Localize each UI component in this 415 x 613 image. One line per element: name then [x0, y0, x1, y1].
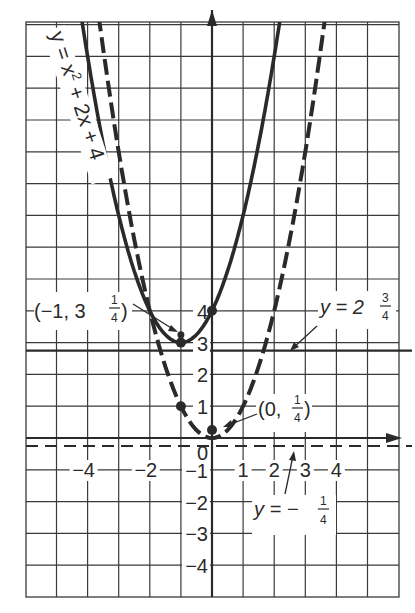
arrow-up-icon: [207, 10, 217, 26]
directrix-lines: [26, 351, 412, 446]
focus1-den: 4: [111, 311, 118, 325]
tick-label: 1: [197, 396, 208, 418]
directrix2-num: 1: [320, 494, 327, 508]
directrix1-num: 3: [382, 291, 389, 305]
arrow-icon: [223, 420, 233, 427]
focus2-den: 4: [294, 411, 301, 425]
focus1-close: ): [121, 300, 128, 322]
focus-label-dashed: (0, 1 4 ): [223, 393, 312, 432]
tick-label: 4: [331, 459, 342, 481]
arrow-icon: [168, 325, 178, 332]
focus1-num: 1: [111, 293, 118, 307]
tick-label: −2: [185, 492, 208, 514]
data-point: [177, 331, 184, 338]
directrix1-text: y = 2: [318, 296, 364, 318]
directrix2-den: 4: [320, 513, 327, 527]
data-point: [176, 401, 186, 411]
directrix1-den: 4: [382, 309, 389, 323]
origin-label: 0: [197, 442, 208, 464]
tick-label: −4: [185, 555, 208, 577]
data-point: [207, 306, 217, 316]
data-point: [176, 338, 186, 348]
tick-label: −3: [185, 523, 208, 545]
tick-label: −4: [72, 459, 95, 481]
focus2-text: (0,: [258, 398, 281, 420]
equation-label: y = x2 + 2x + 4: [42, 24, 117, 185]
directrix2-text: y = −: [252, 498, 298, 520]
parabola-chart: −4−212344321−1−2−3−40 y = x2 + 2x + 4 (−…: [0, 0, 415, 613]
arrow-icon: [289, 451, 296, 461]
tick-label: 3: [197, 333, 208, 355]
data-point: [207, 425, 217, 435]
tick-label: −2: [134, 459, 157, 481]
focus2-num: 1: [294, 393, 301, 407]
tick-label: 2: [269, 459, 280, 481]
directrix-label-dashed: y = − 1 4: [252, 451, 336, 535]
tick-label: 2: [197, 364, 208, 386]
tick-label: 3: [300, 459, 311, 481]
focus2-close: ): [304, 398, 311, 420]
tick-label: 1: [238, 459, 249, 481]
focus1-text: (−1, 3: [34, 300, 86, 322]
